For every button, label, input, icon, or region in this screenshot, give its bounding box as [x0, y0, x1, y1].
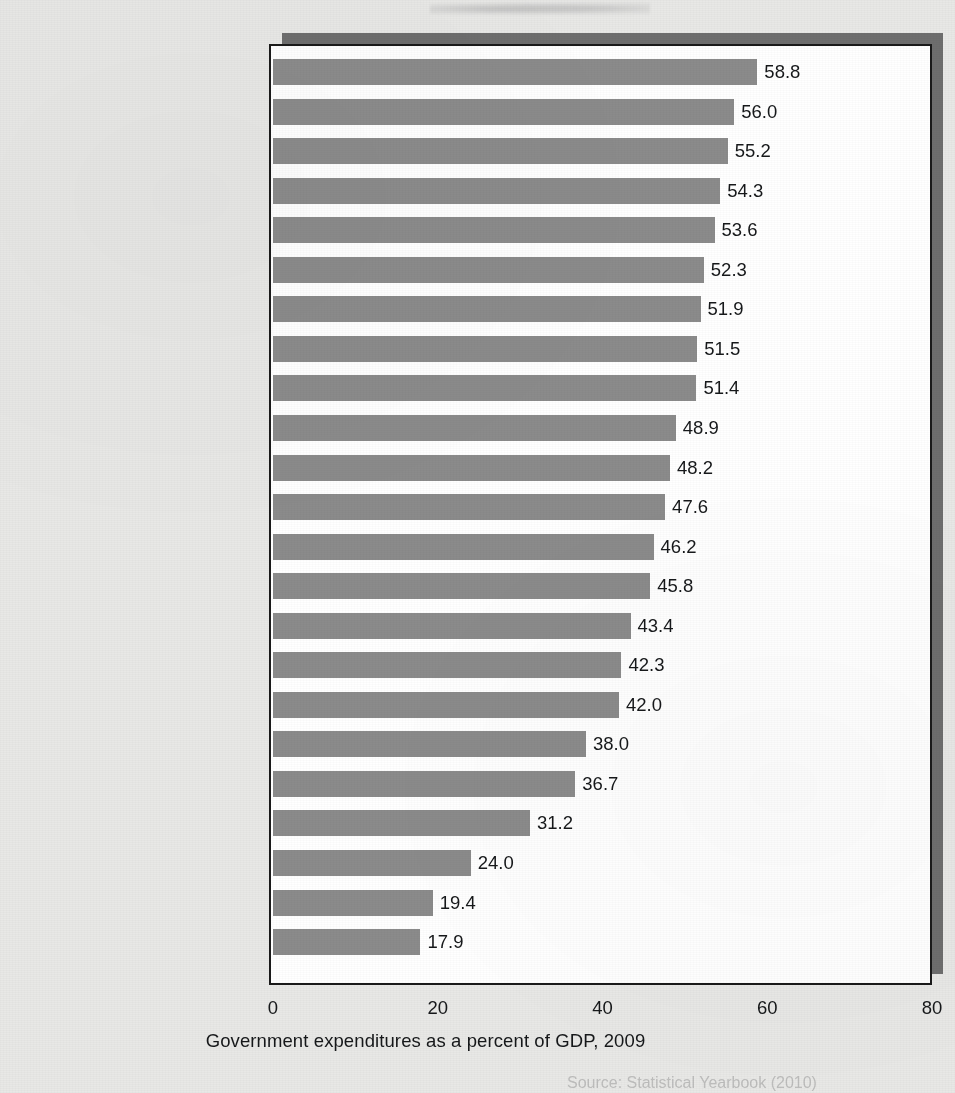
bar-value-label: 56.0 [741, 99, 777, 125]
x-tick-label: 0 [268, 995, 278, 1021]
source-note-text: Source: Statistical Yearbook (2010) [567, 1073, 817, 1092]
bar-value-label: 51.5 [704, 336, 740, 362]
bar [273, 692, 619, 718]
bar [273, 731, 586, 757]
bar-value-label: 38.0 [593, 731, 629, 757]
bar [273, 217, 715, 243]
bar-value-label: 48.2 [677, 455, 713, 481]
bar-value-label: 48.9 [683, 415, 719, 441]
bar-value-label: 31.2 [537, 810, 573, 836]
bar-value-label: 52.3 [711, 257, 747, 283]
x-tick-label: 40 [592, 995, 613, 1021]
bar [273, 59, 757, 85]
bar [273, 890, 433, 916]
bar-value-label: 51.9 [708, 296, 744, 322]
x-tick-label: 80 [922, 995, 943, 1021]
x-tick-label: 20 [427, 995, 448, 1021]
source-note: Source: Statistical Yearbook (2010) [0, 1073, 955, 1093]
bar-value-label: 54.3 [727, 178, 763, 204]
bar-value-label: 46.2 [661, 534, 697, 560]
bar-value-label: 19.4 [440, 890, 476, 916]
bar-value-label: 24.0 [478, 850, 514, 876]
x-axis-title: Government expenditures as a percent of … [0, 1030, 955, 1052]
bar-rows-container: Denmark58.8France56.0Sweden55.2Belgium54… [0, 0, 955, 1093]
bar-value-label: 17.9 [427, 929, 463, 955]
x-tick-label: 60 [757, 995, 778, 1021]
bar [273, 929, 420, 955]
bar [273, 613, 631, 639]
bar-value-label: 58.8 [764, 59, 800, 85]
bar [273, 573, 650, 599]
bar [273, 494, 665, 520]
bar-value-label: 42.0 [626, 692, 662, 718]
x-axis-title-text: Government expenditures as a percent of … [206, 1030, 646, 1051]
bar [273, 415, 676, 441]
bar-value-label: 42.3 [628, 652, 664, 678]
bar-value-label: 43.4 [638, 613, 674, 639]
bar [273, 771, 575, 797]
bar [273, 257, 704, 283]
bar-value-label: 55.2 [735, 138, 771, 164]
bar [273, 652, 621, 678]
bar [273, 375, 696, 401]
bar-value-label: 36.7 [582, 771, 618, 797]
bar [273, 850, 471, 876]
bar [273, 455, 670, 481]
bar [273, 336, 697, 362]
bar [273, 138, 728, 164]
bar-value-label: 51.4 [703, 375, 739, 401]
bar [273, 99, 734, 125]
bar-value-label: 45.8 [657, 573, 693, 599]
bar-value-label: 47.6 [672, 494, 708, 520]
bar [273, 534, 654, 560]
bar [273, 810, 530, 836]
bar [273, 296, 701, 322]
bar-value-label: 53.6 [722, 217, 758, 243]
x-axis-tick-labels: 020406080 [0, 995, 955, 1021]
bar [273, 178, 720, 204]
